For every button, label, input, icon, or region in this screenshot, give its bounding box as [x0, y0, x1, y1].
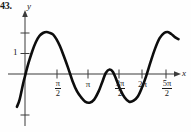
- graph-curve: [17, 32, 179, 107]
- graph-plot-area: [0, 0, 191, 132]
- fraction-denominator: 2: [55, 89, 61, 98]
- fraction-3pi-over-2: 3π 2: [115, 79, 126, 97]
- fraction-denominator: 2: [162, 89, 173, 98]
- x-tick-label-3pi-over-2: 3π 2: [110, 79, 130, 97]
- y-axis-arrowhead: [22, 10, 28, 17]
- x-tick-label-pi: π: [81, 80, 95, 89]
- x-axis-label: x: [182, 69, 186, 78]
- fraction-5pi-over-2: 5π 2: [162, 79, 173, 97]
- x-tick-label-2pi: 2π: [134, 80, 151, 89]
- fraction-denominator: 2: [115, 89, 126, 98]
- x-axis-arrowhead: [174, 71, 181, 77]
- y-tick-label-1: 1: [13, 48, 18, 57]
- fraction-pi-over-2: π 2: [55, 79, 61, 97]
- x-tick-label-5pi-over-2: 5π 2: [157, 79, 177, 97]
- y-axis-label: y: [27, 2, 31, 11]
- x-tick-label-pi-over-2: π 2: [49, 79, 67, 97]
- exercise-figure: 43. y x 1 π 2 π 3π 2 2π 5π: [0, 0, 191, 132]
